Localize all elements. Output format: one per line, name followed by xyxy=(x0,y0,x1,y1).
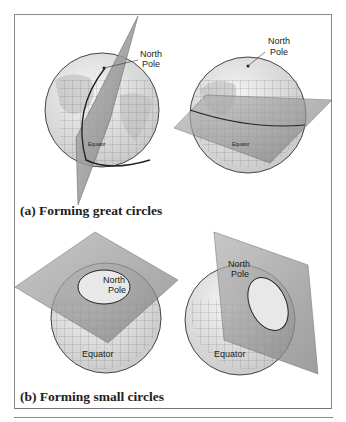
equator-label-a-left: Equator xyxy=(88,141,106,147)
north-pole-label-a-right-2: Pole xyxy=(270,47,288,57)
north-pole-label-a-left-2: Pole xyxy=(142,59,160,69)
globe-a-right: North Pole Equator xyxy=(174,36,332,180)
caption-small-circles: (b) Forming small circles xyxy=(20,389,164,405)
north-pole-label-b-right-2: Pole xyxy=(231,269,249,279)
globe-b-right: North Pole Equator xyxy=(185,232,318,380)
north-pole-label-b-right: North xyxy=(228,259,250,269)
north-pole-label-b-left: North xyxy=(103,275,125,285)
north-pole-label-a-right: North xyxy=(268,36,290,46)
caption-great-circles: (a) Forming great circles xyxy=(20,203,162,219)
north-pole-label-a-left: North xyxy=(140,49,162,59)
equator-label-b-right: Equator xyxy=(214,349,246,359)
globe-b-left: North Pole Equator xyxy=(15,232,178,380)
equator-label-a-right: Equator xyxy=(232,141,250,147)
equator-label-b-left: Equator xyxy=(82,349,114,359)
north-pole-label-b-left-2: Pole xyxy=(108,285,126,295)
globe-a-left: North Pole Equator xyxy=(45,16,162,205)
